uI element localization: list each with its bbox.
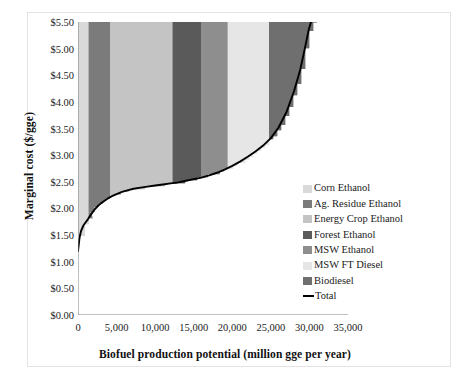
legend-swatch-icon [303, 185, 312, 193]
y-tick-label: $5.50 [28, 17, 74, 28]
y-tick-label: $1.00 [28, 256, 74, 267]
y-tick-label: $1.50 [28, 230, 74, 241]
y-tick-label: $2.00 [28, 203, 74, 214]
area-band-biodiesel [269, 22, 317, 139]
legend-item-label: Ag. Residue Ethanol [314, 199, 401, 210]
area-band-msw-ethanol [201, 22, 227, 177]
y-tick-label: $0.00 [28, 310, 74, 321]
legend-swatch-icon [303, 215, 312, 223]
legend-item[interactable]: Corn Ethanol [303, 181, 455, 196]
legend-item-label: MSW Ethanol [314, 245, 374, 256]
area-band-energy-crop-ethanol [110, 22, 172, 195]
y-tick-label: $2.50 [28, 176, 74, 187]
area-band-forest-ethanol [173, 22, 202, 183]
legend-item[interactable]: MSW FT Diesel [303, 258, 455, 273]
legend-item[interactable]: Forest Ethanol [303, 227, 455, 242]
legend-swatch-icon [303, 295, 314, 297]
legend-item-label: MSW FT Diesel [314, 260, 383, 271]
legend-swatch-icon [303, 277, 312, 285]
legend-swatch-icon [303, 246, 312, 254]
x-axis-tick-labels: 05,00010,00015,00020,00025,00030,00035,0… [0, 322, 461, 340]
legend-item[interactable]: Energy Crop Ethanol [303, 212, 455, 227]
y-tick-label: $3.00 [28, 150, 74, 161]
legend-item[interactable]: Total [303, 289, 455, 304]
legend-item-label: Corn Ethanol [314, 183, 370, 194]
area-band-corn-ethanol [78, 22, 89, 236]
y-tick-label: $3.50 [28, 123, 74, 134]
legend-swatch-icon [303, 262, 312, 270]
y-tick-label: $0.50 [28, 283, 74, 294]
y-tick-label: $5.00 [28, 43, 74, 54]
legend-item-label: Forest Ethanol [314, 230, 376, 241]
legend-item[interactable]: Biodiesel [303, 273, 455, 288]
y-tick-label: $4.50 [28, 70, 74, 81]
legend-item-label: Total [315, 291, 336, 302]
x-tick-label: 35,000 [318, 322, 378, 333]
legend-swatch-icon [303, 200, 312, 208]
legend-swatch-icon [303, 231, 312, 239]
legend-item[interactable]: MSW Ethanol [303, 243, 455, 258]
chart-figure: Marginal cost ($/gge) Biofuel production… [0, 0, 461, 380]
chart-legend: Corn EthanolAg. Residue EthanolEnergy Cr… [303, 181, 455, 304]
area-band-ag-residue-ethanol [89, 22, 111, 218]
legend-item-label: Biodiesel [314, 276, 354, 287]
legend-item[interactable]: Ag. Residue Ethanol [303, 196, 455, 211]
x-axis-title: Biofuel production potential (million gg… [60, 348, 390, 360]
legend-item-label: Energy Crop Ethanol [314, 214, 403, 225]
y-tick-label: $4.00 [28, 96, 74, 107]
